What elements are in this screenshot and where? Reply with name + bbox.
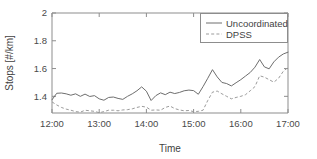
- x-axis-tick-labels: 12:0013:0014:0015:0016:0017:00: [40, 118, 300, 129]
- series-line-uncoordinated: [52, 52, 288, 100]
- x-axis-title: Time: [159, 143, 181, 154]
- data-series-group: [52, 52, 288, 113]
- y-axis-tick-labels: 1.41.61.82: [34, 7, 47, 101]
- x-tick-label: 13:00: [87, 118, 111, 129]
- series-line-dpss: [52, 67, 288, 112]
- x-tick-label: 17:00: [276, 118, 300, 129]
- y-tick-label: 1.6: [34, 63, 47, 74]
- x-tick-label: 15:00: [182, 118, 206, 129]
- y-axis-title: Stops [#/km]: [4, 35, 15, 91]
- y-tick-label: 1.4: [34, 91, 47, 102]
- legend-label-dpss: DPSS: [226, 29, 252, 40]
- figure-container: 12:0013:0014:0015:0016:0017:00 1.41.61.8…: [0, 0, 317, 159]
- legend-label-uncoordinated: Uncoordinated: [226, 18, 288, 29]
- x-tick-label: 14:00: [135, 118, 159, 129]
- legend: Uncoordinated DPSS: [201, 14, 288, 43]
- x-tick-label: 16:00: [229, 118, 253, 129]
- x-tick-label: 12:00: [40, 118, 64, 129]
- line-chart: 12:0013:0014:0015:0016:0017:00 1.41.61.8…: [0, 0, 317, 159]
- y-tick-label: 2: [42, 7, 47, 18]
- y-tick-label: 1.8: [34, 35, 47, 46]
